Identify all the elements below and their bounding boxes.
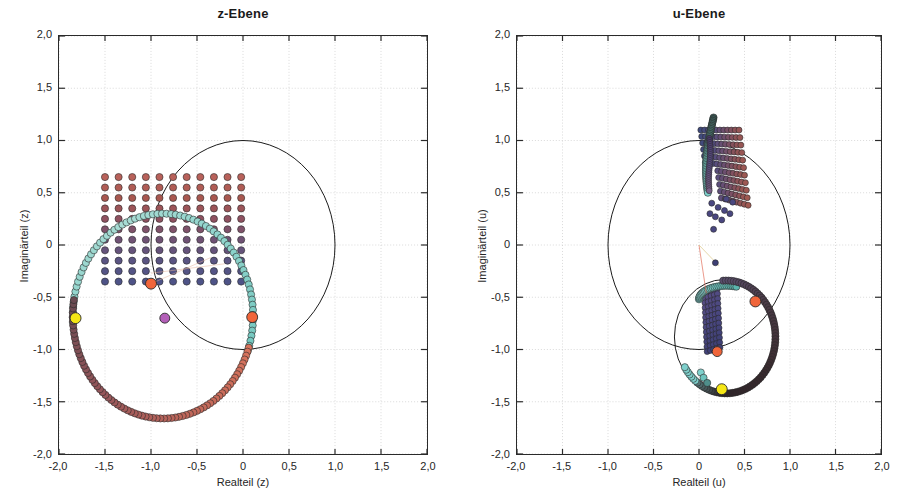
plot-title-z: z-Ebene xyxy=(58,6,428,21)
panel-z-plane: z-Ebene Imaginärteil (z) Realteil (z) xyxy=(0,0,450,497)
y-tick-label-u-6: -1,0 xyxy=(476,343,510,355)
x-tick-label-z-1: -1,5 xyxy=(84,460,124,472)
y-tick-label-z-5: -0,5 xyxy=(18,291,52,303)
y-tick-label-z-1: 1,5 xyxy=(18,81,52,93)
x-tick-label-z-7: 1,5 xyxy=(362,460,402,472)
plot-canvas-z xyxy=(59,36,427,454)
x-tick-label-z-6: 1,0 xyxy=(316,460,356,472)
y-tick-label-u-7: -1,5 xyxy=(476,396,510,408)
y-tick-label-z-0: 2,0 xyxy=(18,28,52,40)
panel-u-plane: u-Ebene Imaginärteil (u) Realteil (u) xyxy=(450,0,897,497)
y-tick-label-z-2: 1,0 xyxy=(18,133,52,145)
y-tick-label-z-6: -1,0 xyxy=(18,343,52,355)
y-tick-label-u-2: 1,0 xyxy=(476,133,510,145)
x-axis-label-u: Realteil (u) xyxy=(516,476,882,488)
y-tick-label-u-3: 0,5 xyxy=(476,186,510,198)
y-tick-label-z-8: -2,0 xyxy=(18,448,52,460)
x-tick-label-u-4: 0 xyxy=(679,460,719,472)
x-tick-label-z-5: 0,5 xyxy=(269,460,309,472)
x-tick-label-u-8: 2,0 xyxy=(862,460,897,472)
x-tick-label-z-0: -2,0 xyxy=(38,460,78,472)
x-tick-label-z-2: -1,0 xyxy=(131,460,171,472)
x-tick-label-z-3: -0,5 xyxy=(177,460,217,472)
y-tick-label-u-1: 1,5 xyxy=(476,81,510,93)
y-tick-label-u-4: 0 xyxy=(476,238,510,250)
y-tick-label-z-4: 0 xyxy=(18,238,52,250)
y-tick-label-z-7: -1,5 xyxy=(18,396,52,408)
y-tick-label-u-8: -2,0 xyxy=(476,448,510,460)
x-tick-label-u-7: 1,5 xyxy=(816,460,856,472)
x-tick-label-u-3: -0,5 xyxy=(633,460,673,472)
x-tick-label-u-2: -1,0 xyxy=(588,460,628,472)
y-tick-label-u-0: 2,0 xyxy=(476,28,510,40)
plot-title-u: u-Ebene xyxy=(516,6,882,21)
x-tick-label-u-1: -1,5 xyxy=(542,460,582,472)
x-tick-label-z-8: 2,0 xyxy=(408,460,448,472)
x-tick-label-u-5: 0,5 xyxy=(725,460,765,472)
plot-canvas-u xyxy=(517,36,881,454)
y-tick-label-z-3: 0,5 xyxy=(18,186,52,198)
plot-area-u xyxy=(516,35,882,455)
y-tick-label-u-5: -0,5 xyxy=(476,291,510,303)
figure-root: z-Ebene Imaginärteil (z) Realteil (z) u-… xyxy=(0,0,897,497)
x-tick-label-u-0: -2,0 xyxy=(496,460,536,472)
x-tick-label-z-4: 0 xyxy=(223,460,263,472)
plot-area-z xyxy=(58,35,428,455)
x-tick-label-u-6: 1,0 xyxy=(771,460,811,472)
x-axis-label-z: Realteil (z) xyxy=(58,476,428,488)
